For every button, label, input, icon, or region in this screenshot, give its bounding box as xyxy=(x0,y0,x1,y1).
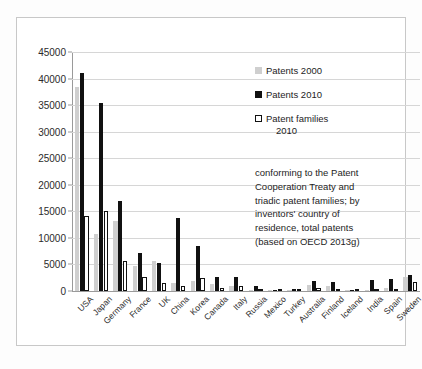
bar xyxy=(239,286,243,291)
bar xyxy=(171,283,175,291)
bar xyxy=(403,277,407,291)
legend-label: Patent families xyxy=(266,113,328,124)
legend-item-patents-2000: Patents 2000 xyxy=(255,65,405,77)
bar xyxy=(80,73,84,291)
bar xyxy=(191,281,195,291)
bar xyxy=(254,286,258,291)
legend-label: Patents 2000 xyxy=(266,65,322,77)
x-axis-tick-label: India xyxy=(365,294,385,314)
bar xyxy=(297,289,301,291)
bar xyxy=(355,289,359,291)
annotation-line: inventors' country of xyxy=(255,207,407,221)
bar xyxy=(258,289,262,291)
bar xyxy=(210,284,214,291)
bar xyxy=(413,282,417,291)
legend-swatch-icon xyxy=(255,91,262,98)
bar xyxy=(268,290,272,291)
bar-group xyxy=(111,52,130,291)
bar xyxy=(316,288,320,291)
legend-label-line2: 2010 xyxy=(266,125,328,137)
bar-group xyxy=(169,52,188,291)
bar xyxy=(142,277,146,291)
bar-group xyxy=(130,52,149,291)
legend-label: Patents 2010 xyxy=(266,89,322,101)
bar xyxy=(287,290,291,291)
bar xyxy=(75,87,79,291)
bar xyxy=(307,285,311,291)
bar xyxy=(162,283,166,291)
chart-annotation: conforming to the PatentCooperation Trea… xyxy=(255,166,407,249)
bar xyxy=(278,289,282,291)
bar xyxy=(157,263,161,291)
y-axis-tick-label: 30000 xyxy=(38,126,72,137)
legend-item-patent-families-2010: Patent families 2010 xyxy=(255,113,405,137)
bar xyxy=(370,280,374,291)
annotation-line: Cooperation Treaty and xyxy=(255,180,407,194)
bar xyxy=(113,221,117,291)
y-axis-tick-label: 10000 xyxy=(38,232,72,243)
bar-group xyxy=(227,52,246,291)
bar xyxy=(336,289,340,291)
gridline xyxy=(72,291,420,292)
bar xyxy=(365,290,369,291)
bar xyxy=(292,289,296,291)
bar xyxy=(133,266,137,291)
bar xyxy=(331,282,335,291)
chart-frame: 4500040000350003000025000200001500010000… xyxy=(16,17,406,346)
bar xyxy=(196,246,200,291)
bar xyxy=(229,286,233,291)
annotation-line: conforming to the Patent xyxy=(255,166,407,180)
annotation-line: (based on OECD 2013g) xyxy=(255,235,407,249)
bar xyxy=(273,290,277,291)
bar xyxy=(384,288,388,291)
bar xyxy=(200,278,204,291)
legend-swatch-icon xyxy=(255,115,262,122)
legend-swatch-icon xyxy=(255,67,262,74)
bar-group xyxy=(72,52,91,291)
y-axis-tick-label: 20000 xyxy=(38,179,72,190)
y-axis-tick-label: 40000 xyxy=(38,73,72,84)
chart-legend: Patents 2000 Patents 2010 Patent familie… xyxy=(255,65,405,149)
bar xyxy=(99,103,103,291)
bar-group xyxy=(188,52,207,291)
bar xyxy=(94,234,98,291)
bar xyxy=(104,211,108,291)
bar xyxy=(249,290,253,291)
bar xyxy=(374,289,378,291)
bar xyxy=(312,281,316,291)
bar-group xyxy=(149,52,168,291)
y-axis-tick-label: 35000 xyxy=(38,100,72,111)
bar xyxy=(389,279,393,291)
bar-group xyxy=(207,52,226,291)
annotation-line: residence, total patents xyxy=(255,221,407,235)
bar xyxy=(394,289,398,291)
annotation-line: triadic patent families; by xyxy=(255,194,407,208)
patents-bar-chart: 4500040000350003000025000200001500010000… xyxy=(0,0,422,369)
bar xyxy=(118,201,122,291)
x-axis-tick-label: China xyxy=(169,294,192,317)
bar xyxy=(181,286,185,291)
bar xyxy=(138,253,142,291)
bar xyxy=(234,277,238,291)
bar xyxy=(123,261,127,291)
bar xyxy=(345,290,349,291)
bar xyxy=(220,288,224,291)
y-axis-tick-label: 25000 xyxy=(38,153,72,164)
bar xyxy=(84,216,88,291)
legend-item-patents-2010: Patents 2010 xyxy=(255,89,405,101)
bar xyxy=(176,218,180,291)
bar-group xyxy=(91,52,110,291)
bar xyxy=(326,286,330,291)
bar xyxy=(215,277,219,291)
bar xyxy=(152,261,156,291)
y-axis-tick-label: 45000 xyxy=(38,47,72,58)
y-axis-tick-label: 15000 xyxy=(38,206,72,217)
bar xyxy=(350,290,354,291)
x-axis-labels: USAJapanGermanyFranceUKChinaKoreaCanadaI… xyxy=(72,294,420,346)
bar xyxy=(408,275,412,291)
